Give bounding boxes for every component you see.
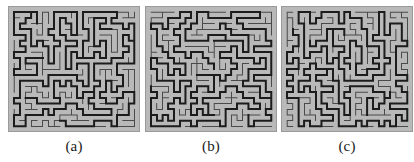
panel-a xyxy=(8,6,140,132)
maze-canvas-c xyxy=(281,6,413,132)
panel-c xyxy=(281,6,413,132)
panel-b xyxy=(145,6,277,132)
figure-container: (a) (b) (c) xyxy=(0,0,414,162)
caption-b: (b) xyxy=(145,136,277,156)
caption-c: (c) xyxy=(281,136,413,156)
maze-canvas-b xyxy=(145,6,277,132)
maze-canvas-a xyxy=(8,6,140,132)
caption-a: (a) xyxy=(8,136,140,156)
